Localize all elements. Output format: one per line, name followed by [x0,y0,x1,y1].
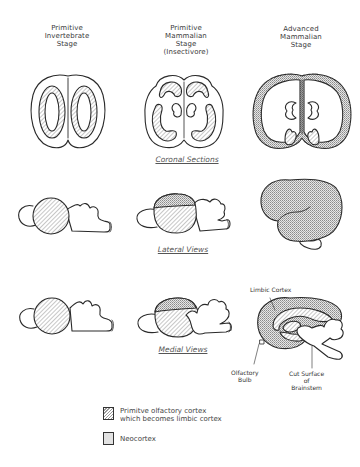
lateral-view-primitive-mammalian [137,194,230,233]
row-label-medial-views: Medial Views [133,345,233,354]
stippled-swatch-icon [103,432,114,445]
brain-evolution-figure [0,0,360,467]
legend-label: which becomes limbic cortex [120,415,222,423]
legend-label: Primitve olfactory cortex [120,407,222,415]
annotation-cut-surface-brainstem: Cut Surface of Brainstem [289,370,324,391]
annotation-line: of [289,377,324,384]
medial-view-invertebrate [20,298,114,334]
coronal-section-primitive-mammalian [145,76,223,148]
hatched-swatch-icon [103,407,114,420]
annotation-olfactory-bulb: Olfactory Bulb [231,369,259,383]
legend-item-olfactory-cortex: Primitve olfactory cortex which becomes … [103,407,222,423]
annotation-line: Olfactory [231,369,259,376]
legend-label: Neocortex [120,435,156,443]
lateral-view-invertebrate [19,198,112,234]
lateral-view-advanced-mammalian [261,179,342,249]
row-label-lateral-views: Lateral Views [133,245,233,254]
medial-view-primitive-mammalian [138,298,231,337]
coronal-section-invertebrate [31,75,105,148]
coronal-section-advanced-mammalian [253,74,351,148]
annotation-limbic-cortex: Limbic Cortex [250,286,291,293]
annotation-line: Bulb [231,376,259,383]
annotation-line: Cut Surface [289,370,324,377]
medial-view-advanced-mammalian [254,298,343,369]
row-label-coronal-sections: Coronal Sections [137,155,237,164]
legend-item-neocortex: Neocortex [103,432,156,445]
annotation-line: Brainstem [289,384,324,391]
